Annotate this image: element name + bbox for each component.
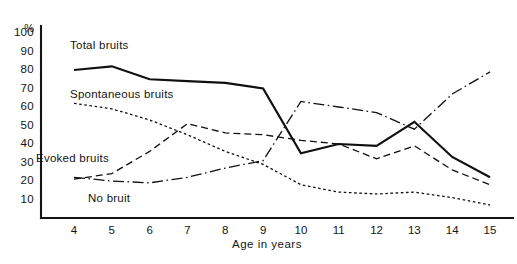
x-tick-11: 11 [327, 224, 351, 236]
x-tick-13: 13 [402, 224, 426, 236]
series-total-bruits [74, 66, 490, 177]
y-tick-40: 40 [4, 138, 34, 149]
y-tick-70: 70 [4, 83, 34, 94]
annotation-no-bruit: No bruit [88, 192, 130, 204]
y-tick-100: 100 [4, 27, 34, 38]
x-tick-7: 7 [175, 224, 199, 236]
y-tick-20: 20 [4, 175, 34, 186]
x-tick-10: 10 [289, 224, 313, 236]
x-tick-4: 4 [62, 224, 86, 236]
y-tick-80: 80 [4, 64, 34, 75]
x-axis-title: Age in years [232, 238, 302, 250]
bruits-prevalence-line-chart: % 100908070605040302010 4567891011121314… [0, 0, 517, 264]
y-tick-90: 90 [4, 46, 34, 57]
x-tick-14: 14 [440, 224, 464, 236]
x-tick-9: 9 [251, 224, 275, 236]
annotation-evoked-bruits: Evoked bruits [36, 152, 109, 164]
x-tick-6: 6 [138, 224, 162, 236]
y-tick-50: 50 [4, 120, 34, 131]
annotation-spontaneous-bruits: Spontaneous bruits [70, 88, 174, 100]
y-tick-30: 30 [4, 157, 34, 168]
x-tick-8: 8 [213, 224, 237, 236]
x-tick-15: 15 [478, 224, 502, 236]
y-tick-10: 10 [4, 194, 34, 205]
annotation-total-bruits: Total bruits [70, 39, 129, 51]
y-tick-60: 60 [4, 101, 34, 112]
x-tick-12: 12 [365, 224, 389, 236]
x-tick-5: 5 [100, 224, 124, 236]
